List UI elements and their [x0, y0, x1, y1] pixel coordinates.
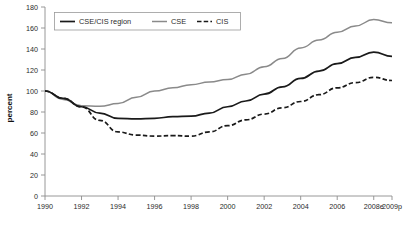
x-tick-label: 2008e: [364, 202, 384, 211]
x-tick-label: 2006: [329, 202, 345, 211]
y-axis-title-group: percent: [5, 93, 14, 122]
x-tick-label: 2000: [220, 202, 236, 211]
y-tick-label: 40: [30, 150, 38, 159]
y-tick-label: 0: [34, 192, 38, 201]
series-line-cse-cis-region: [45, 52, 392, 119]
x-tick-label: 2002: [256, 202, 272, 211]
x-tick-label: 1990: [37, 202, 53, 211]
y-tick-label: 120: [26, 66, 38, 75]
x-tick-label: 1998: [183, 202, 199, 211]
legend-label-cse: CSE: [171, 17, 186, 26]
y-tick-label: 80: [30, 108, 38, 117]
y-tick-label: 60: [30, 129, 38, 138]
y-tick-label: 20: [30, 171, 38, 180]
x-tick-label: 2004: [293, 202, 309, 211]
x-tick-label: 1996: [147, 202, 163, 211]
y-axis-ticks: 020406080100120140160180: [26, 3, 45, 201]
x-tick-label: 2009p: [382, 202, 402, 211]
legend-label-cis: CIS: [216, 17, 228, 26]
y-tick-label: 140: [26, 45, 38, 54]
x-tick-label: 1994: [110, 202, 126, 211]
y-tick-label: 100: [26, 87, 38, 96]
y-tick-label: 180: [26, 3, 38, 12]
x-tick-label: 1992: [74, 202, 90, 211]
chart-container: percent 020406080100120140160180 1990199…: [0, 0, 404, 227]
x-axis-ticks: 1990199219941996199820002002200420062008…: [37, 196, 402, 211]
legend-label-cse-cis-region: CSE/CIS region: [79, 17, 131, 26]
line-chart: percent 020406080100120140160180 1990199…: [0, 0, 404, 227]
series-layer: [45, 20, 392, 137]
y-tick-label: 160: [26, 24, 38, 33]
y-axis-title: percent: [5, 93, 14, 122]
legend: CSE/CIS region CSE CIS: [55, 13, 241, 31]
